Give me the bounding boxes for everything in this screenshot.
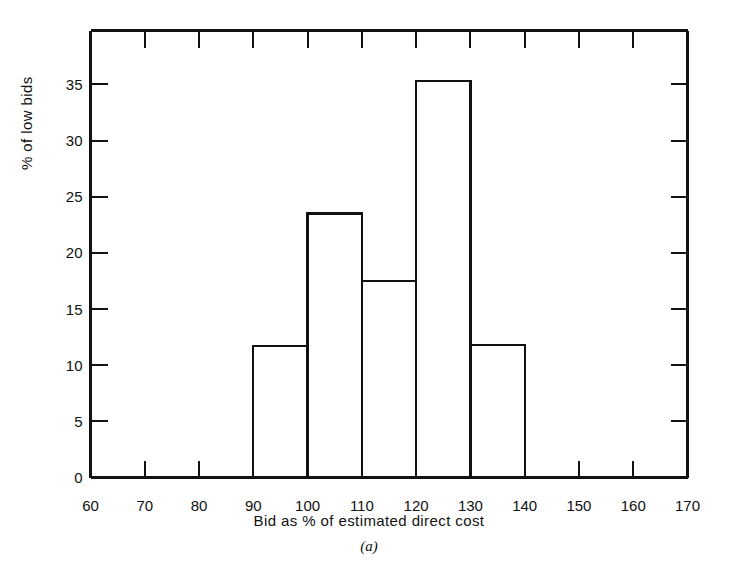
y-axis-ticks [91, 84, 688, 421]
histogram-figure: 6070809010011012013014015016017005101520… [0, 0, 738, 581]
y-tick-label-15: 15 [66, 301, 83, 318]
axis-frame [91, 31, 688, 478]
histogram-bar-1 [308, 214, 362, 478]
y-tick-label-20: 20 [66, 244, 83, 261]
histogram-plot: 6070809010011012013014015016017005101520… [0, 0, 738, 581]
x-axis-title: Bid as % of estimated direct cost [0, 512, 738, 529]
y-tick-label-10: 10 [66, 357, 83, 374]
histogram-bar-3 [416, 81, 470, 477]
y-tick-label-25: 25 [66, 188, 83, 205]
histogram-bar-2 [362, 281, 416, 478]
x-axis-ticks [145, 31, 633, 478]
histogram-bar-0 [253, 346, 307, 477]
figure-caption: (a) [0, 538, 738, 555]
y-tick-label-30: 30 [66, 132, 83, 149]
y-tick-label-0: 0 [74, 469, 82, 486]
y-axis-title: % of low bids [14, 0, 38, 170]
histogram-bars [253, 81, 524, 477]
y-tick-label-35: 35 [66, 76, 83, 93]
y-tick-label-5: 5 [74, 413, 82, 430]
histogram-bar-4 [470, 345, 524, 478]
y-axis-title-text: % of low bids [18, 76, 35, 170]
y-tick-labels: 05101520253035 [66, 76, 83, 486]
